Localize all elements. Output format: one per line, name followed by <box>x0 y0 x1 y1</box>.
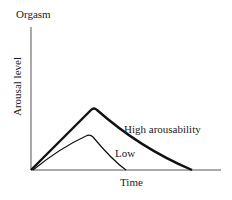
high-arousability-curve <box>31 109 192 171</box>
orgasm-label: Orgasm <box>16 8 51 20</box>
high-arousability-label: High arousability <box>124 123 201 135</box>
y-axis-label: Arousal level <box>11 57 23 116</box>
low-label: Low <box>115 147 135 159</box>
arousal-diagram <box>0 0 232 200</box>
x-axis-label: Time <box>120 176 143 188</box>
